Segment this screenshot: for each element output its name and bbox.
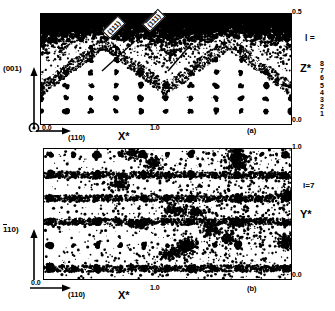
panel-b-diffuse-streaks <box>44 149 291 279</box>
panel-b-scatter <box>44 149 291 279</box>
panel-a-direction-arrows <box>26 66 42 132</box>
panel-b-ytick-max: 1.0 <box>292 143 302 150</box>
panel-a-xtick-mid: 1.0 <box>150 124 160 131</box>
panel-b-yaxis-name: Y* <box>300 208 312 220</box>
panel-a-yaxis-name: Z* <box>300 62 311 74</box>
panel-b-dir-rest: 10) <box>7 225 19 234</box>
panel-a-canvas <box>41 14 291 124</box>
panel-a-xtick-min: 0.0 <box>42 124 52 131</box>
panel-b-xaxis-name: X* <box>118 289 130 301</box>
panel-a-direction-110-arrow <box>34 124 72 138</box>
panel-b-index-label: l=7 <box>303 181 314 190</box>
panel-b-canvas <box>44 149 291 279</box>
panel-a-plot-area <box>40 13 292 125</box>
panel-b-xtick-min: 0.0 <box>31 279 41 286</box>
index-tick: 1 <box>320 110 324 117</box>
index-tick: 5 <box>320 82 324 89</box>
index-tick: 2 <box>320 103 324 110</box>
panel-a-ytick-max: 0.5 <box>292 8 302 15</box>
index-tick: 8 <box>320 60 324 67</box>
panel-a-ytick-min: 0.0 <box>292 116 302 123</box>
panel-b-vertical-arrow <box>26 228 42 282</box>
panel-b-ytick-min: 0.0 <box>292 271 302 278</box>
figure-caption <box>4 302 331 311</box>
panel-a-index-label: l = <box>305 33 315 43</box>
panel-b-direction-110-label: (110) <box>68 290 85 299</box>
figure-root: (111) (111) 0.5 0.0 l = Z* 8 7 6 5 4 3 2… <box>0 0 335 311</box>
panel-a-xaxis-name: X* <box>118 130 130 142</box>
index-tick: 7 <box>320 67 324 74</box>
panel-a-scatter <box>41 14 291 124</box>
panel-b-id: (b) <box>247 284 257 293</box>
panel-a-id: (a) <box>247 126 256 135</box>
index-tick: 6 <box>320 74 324 81</box>
panel-a-index-tick-list: 8 7 6 5 4 3 2 1 <box>320 60 334 118</box>
panel-a-direction-110-label: (110) <box>68 133 85 142</box>
panel-a-direction-001-label: (001) <box>3 64 22 73</box>
panel-a-diffuse-cloud <box>41 14 291 97</box>
index-tick: 3 <box>320 96 324 103</box>
index-tick: 4 <box>320 89 324 96</box>
panel-b-xtick-mid: 1.0 <box>150 284 160 291</box>
panel-b-plot-area <box>43 148 292 280</box>
panel-b-direction-1bar10-label: 110) <box>3 225 19 234</box>
